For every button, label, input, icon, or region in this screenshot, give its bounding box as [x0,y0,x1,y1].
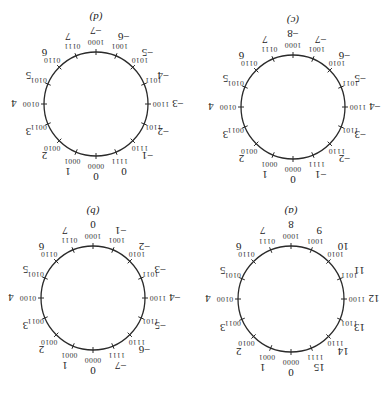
decimal-value-label: −4 [169,292,181,304]
decimal-value-label: −3 [354,129,366,141]
binary-code-label: 1000 [85,232,102,240]
decimal-value-label: 15 [313,362,325,374]
decimal-value-label: 5 [25,70,31,82]
decimal-value-label: −5 [141,47,153,59]
decimal-value-label: 2 [39,344,45,356]
position-labels: 0000000011001020011301004010150110601117… [208,28,381,186]
panel-title: (d) [89,11,102,24]
binary-code-label: 1000 [88,38,105,46]
binary-code-label: 1111 [307,353,324,361]
decimal-value-label: −2 [139,241,151,253]
decimal-value-label: 6 [38,241,44,253]
tick-marks [41,49,151,159]
decimal-value-label: 0 [93,171,99,183]
position-labels: 0000000011001020011301004010150110601117… [205,219,380,379]
binary-code-label: 0101 [225,271,242,279]
decimal-value-label: 3 [22,320,28,332]
decimal-value-label: 1 [262,169,268,181]
decimal-value-label: −1 [315,169,327,181]
decimal-value-label: −5 [354,73,366,85]
binary-code-label: 1111 [108,351,125,359]
panel-d-ones-complement: 0000000011001020011301004010150110601117… [11,11,184,183]
decimal-value-label: −6 [138,344,150,356]
decimal-value-label: 3 [219,322,225,334]
decimal-value-label: −3 [154,264,166,276]
decimal-value-label: −7 [115,360,127,372]
decimal-value-label: 12 [369,293,380,305]
binary-code-label: 0001 [259,353,276,361]
tick-marks [238,52,348,162]
binary-code-label: 0100 [220,103,237,111]
decimal-value-label: −1 [115,225,127,237]
tick-marks [235,243,347,355]
binary-code-label: 0001 [261,160,278,168]
decimal-value-label: 0 [90,219,96,231]
decimal-value-label: 6 [235,241,241,253]
figure-rotated-180: 0000000011001020011301004010150110601117… [8,11,381,379]
decimal-value-label: 8 [288,219,294,231]
decimal-value-label: 7 [259,225,265,237]
tick-marks [38,243,148,353]
decimal-value-label: 7 [65,31,71,43]
binary-code-label: 1000 [285,41,302,49]
panel-title: (b) [86,205,99,218]
decimal-value-label: 10 [337,241,349,253]
decimal-value-label: 3 [222,129,228,141]
decimal-value-label: −7 [315,34,327,46]
decimal-value-label: 5 [222,73,228,85]
decimal-value-label: 0 [121,166,127,178]
decimal-value-label: 6 [238,50,244,62]
binary-code-label: 0011 [27,317,44,325]
binary-code-label: 0000 [85,356,102,364]
binary-code-label: 0101 [227,79,244,87]
decimal-value-label: −2 [339,153,351,165]
decimal-value-label: 7 [262,34,268,46]
binary-code-label: 0101 [30,76,47,84]
binary-code-label: 0000 [88,162,105,170]
binary-code-label: 1100 [349,295,366,303]
decimal-value-label: 5 [219,265,225,277]
decimal-value-label: 2 [236,346,242,358]
decimal-value-label: 3 [25,126,31,138]
decimal-value-label: 1 [65,166,71,178]
decimal-value-label: 0 [288,367,294,379]
decimal-value-label: 2 [239,153,245,165]
decimal-value-label: 11 [354,265,365,277]
decimal-value-label: 9 [316,225,322,237]
binary-code-label: 0011 [227,126,244,134]
binary-code-label: 0001 [64,157,81,165]
decimal-value-label: 2 [42,150,48,162]
decimal-value-label: −3 [172,98,184,110]
binary-code-label: 1111 [308,160,325,168]
decimal-value-label: 4 [208,101,214,113]
panel-title: (a) [284,205,297,218]
binary-code-label: 0100 [23,100,40,108]
decimal-value-label: 13 [353,322,365,334]
binary-code-label: 1100 [153,100,170,108]
decimal-value-label: 5 [22,264,28,276]
binary-code-label: 0000 [283,358,300,366]
binary-code-label: 0100 [217,295,234,303]
decimal-value-label: −2 [158,126,170,138]
decimal-value-label: −7 [90,25,102,37]
binary-code-label: 1100 [150,294,167,302]
decimal-value-label: −4 [369,101,381,113]
position-labels: 0000000011001020011301004010150110601117… [8,219,181,377]
decimal-value-label: 4 [8,292,14,304]
decimal-value-label: 4 [11,98,17,110]
decimal-value-label: −4 [157,70,169,82]
position-labels: 0000000011001020011301004010150110601117… [11,25,184,183]
decimal-value-label: 7 [62,225,68,237]
decimal-value-label: −1 [142,150,154,162]
decimal-value-label: 14 [337,346,349,358]
decimal-value-label: 6 [41,47,47,59]
binary-code-label: 0001 [61,351,78,359]
binary-code-label: 0000 [285,165,302,173]
binary-code-label: 1000 [283,232,300,240]
decimal-value-label: 1 [260,362,266,374]
binary-code-label: 0011 [225,319,242,327]
decimal-value-label: 0 [90,365,96,377]
binary-code-label: 0100 [20,294,37,302]
panel-a-unsigned: 0000000011001020011301004010150110601117… [205,205,380,379]
number-circles-figure: 0000000011001020011301004010150110601117… [0,0,387,400]
